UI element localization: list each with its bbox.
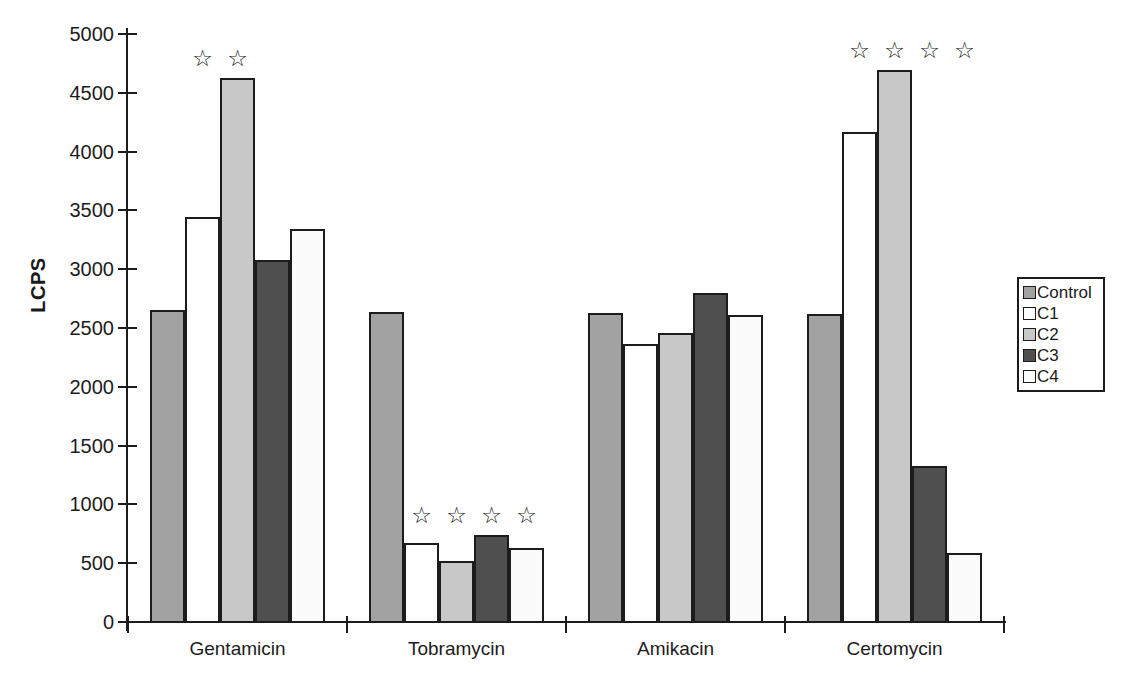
y-tick-label: 0 [30,611,114,633]
significance-star: ☆ [514,502,540,528]
bar-gentamicin-c3 [255,260,290,623]
legend-swatch-icon [1023,370,1036,383]
significance-star: ☆ [444,502,470,528]
y-tick-label: 5000 [30,23,114,45]
bar-tobramycin-c3 [474,535,509,623]
legend-label: C1 [1037,303,1059,324]
y-tick [118,503,137,505]
bar-amikacin-c4 [728,315,763,623]
y-tick-label: 2500 [30,317,114,339]
y-tick [118,386,137,388]
y-tick [118,92,137,94]
y-tick [118,209,137,211]
bar-certomycin-c4 [947,553,982,623]
bar-amikacin-control [588,313,623,623]
chart-figure: LCPS 05001000150020002500300035004000450… [0,0,1145,692]
x-category-label-amikacin: Amikacin [566,638,785,660]
legend-swatch-icon [1023,328,1036,341]
y-tick-label: 3000 [30,258,114,280]
bar-amikacin-c1 [623,344,658,623]
legend-item-c1: C1 [1023,303,1101,324]
y-tick [118,151,137,153]
legend-label: C4 [1037,366,1059,387]
significance-star: ☆ [409,502,435,528]
legend-item-c2: C2 [1023,324,1101,345]
legend-item-control: Control [1023,282,1101,303]
x-category-label-tobramycin: Tobramycin [347,638,566,660]
x-tick [127,616,129,633]
bar-tobramycin-c4 [509,548,544,623]
bar-gentamicin-c1 [185,217,220,623]
bar-gentamicin-c2 [220,78,255,623]
legend-item-c3: C3 [1023,345,1101,366]
y-tick [118,33,137,35]
bar-amikacin-c2 [658,333,693,623]
y-tick-label: 4000 [30,141,114,163]
y-tick-label: 500 [30,552,114,574]
significance-star: ☆ [917,37,943,63]
x-tick [565,616,567,633]
significance-star: ☆ [479,502,505,528]
significance-star: ☆ [190,45,216,71]
bar-gentamicin-c4 [290,229,325,623]
significance-star: ☆ [882,37,908,63]
y-tick [118,268,137,270]
bar-certomycin-c1 [842,132,877,623]
y-tick-label: 3500 [30,199,114,221]
y-tick [118,327,137,329]
y-tick-label: 1000 [30,493,114,515]
bar-gentamicin-control [150,310,185,623]
x-tick [1003,616,1005,633]
y-axis [126,28,128,631]
legend-label: Control [1037,282,1092,303]
legend-swatch-icon [1023,286,1036,299]
legend-item-c4: C4 [1023,366,1101,387]
legend-swatch-icon [1023,307,1036,320]
legend-label: C3 [1037,345,1059,366]
y-tick-label: 1500 [30,435,114,457]
bar-certomycin-c3 [912,466,947,623]
significance-star: ☆ [952,37,978,63]
x-category-label-gentamicin: Gentamicin [128,638,347,660]
bar-amikacin-c3 [693,293,728,623]
x-tick [346,616,348,633]
legend-swatch-icon [1023,349,1036,362]
significance-star: ☆ [225,45,251,71]
y-tick [118,562,137,564]
legend-label: C2 [1037,324,1059,345]
y-tick [118,445,137,447]
x-category-label-certomycin: Certomycin [785,638,1004,660]
bar-certomycin-c2 [877,70,912,623]
legend: ControlC1C2C3C4 [1017,277,1105,392]
bar-tobramycin-control [369,312,404,623]
y-tick-label: 2000 [30,376,114,398]
bar-tobramycin-c2 [439,561,474,623]
bar-certomycin-control [807,314,842,623]
x-tick [784,616,786,633]
bar-tobramycin-c1 [404,543,439,623]
y-tick-label: 4500 [30,82,114,104]
significance-star: ☆ [847,37,873,63]
